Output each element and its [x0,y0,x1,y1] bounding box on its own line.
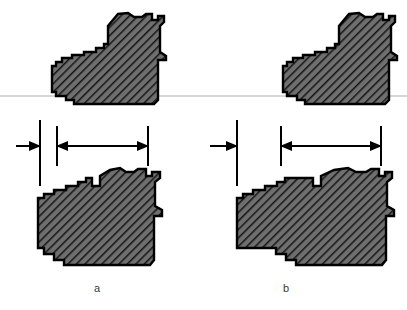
figure-canvas [0,0,407,310]
panel-label-a: a [94,282,100,294]
technical-drawing-svg [0,0,407,310]
panel-label-b: b [283,282,289,294]
